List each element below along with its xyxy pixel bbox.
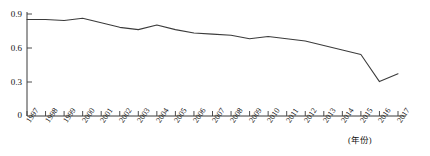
x-axis-title: (年份) <box>348 136 372 145</box>
plot-area <box>0 0 430 156</box>
line-chart: 0.9 0.6 0.3 0 19971998199920002001200220… <box>0 0 430 156</box>
axes <box>27 12 406 116</box>
data-line <box>27 18 398 81</box>
